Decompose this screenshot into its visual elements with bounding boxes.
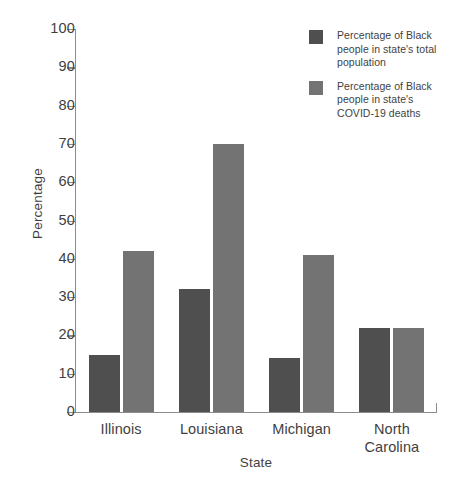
x-axis-category-label: NorthCarolina bbox=[332, 420, 452, 456]
x-axis-category-label-line: North bbox=[332, 420, 452, 438]
y-axis-tick-label: 10 bbox=[13, 365, 75, 381]
legend-label: Percentage of Blackpeople in state'sCOVI… bbox=[337, 80, 432, 121]
bar bbox=[123, 251, 154, 412]
y-axis-tick-label: 30 bbox=[13, 288, 75, 304]
bar bbox=[179, 289, 210, 412]
x-axis-category-label-line: Carolina bbox=[332, 438, 452, 456]
bar bbox=[393, 328, 424, 412]
legend-entry: Percentage of Blackpeople in state'sCOVI… bbox=[309, 80, 461, 121]
medium-gray-swatch bbox=[309, 81, 323, 95]
legend-label-line: people in state's total bbox=[337, 43, 436, 57]
bar bbox=[359, 328, 390, 412]
y-axis-tick-label: 0 bbox=[13, 403, 75, 419]
chart-legend: Percentage of Blackpeople in state's tot… bbox=[309, 29, 461, 130]
bar bbox=[269, 358, 300, 412]
legend-label: Percentage of Blackpeople in state's tot… bbox=[337, 29, 436, 70]
legend-label-line: COVID-19 deaths bbox=[337, 107, 432, 121]
x-axis-line bbox=[75, 412, 437, 413]
y-axis-tick-label: 100 bbox=[13, 20, 75, 36]
bar bbox=[89, 355, 120, 412]
y-axis-tick-label: 90 bbox=[13, 58, 75, 74]
x-axis-title: State bbox=[75, 455, 437, 470]
bar bbox=[303, 255, 334, 412]
bar-chart: 0102030405060708090100 Percentage Illino… bbox=[0, 0, 464, 486]
legend-label-line: people in state's bbox=[337, 93, 432, 107]
y-axis-tick-label: 20 bbox=[13, 326, 75, 342]
legend-label-line: Percentage of Black bbox=[337, 29, 436, 43]
bar bbox=[213, 144, 244, 412]
legend-entry: Percentage of Blackpeople in state's tot… bbox=[309, 29, 461, 70]
y-axis-title: Percentage bbox=[30, 144, 45, 264]
legend-label-line: population bbox=[337, 56, 436, 70]
dark-gray-swatch bbox=[309, 30, 323, 44]
y-axis-tick-label: 80 bbox=[13, 97, 75, 113]
legend-label-line: Percentage of Black bbox=[337, 80, 432, 94]
